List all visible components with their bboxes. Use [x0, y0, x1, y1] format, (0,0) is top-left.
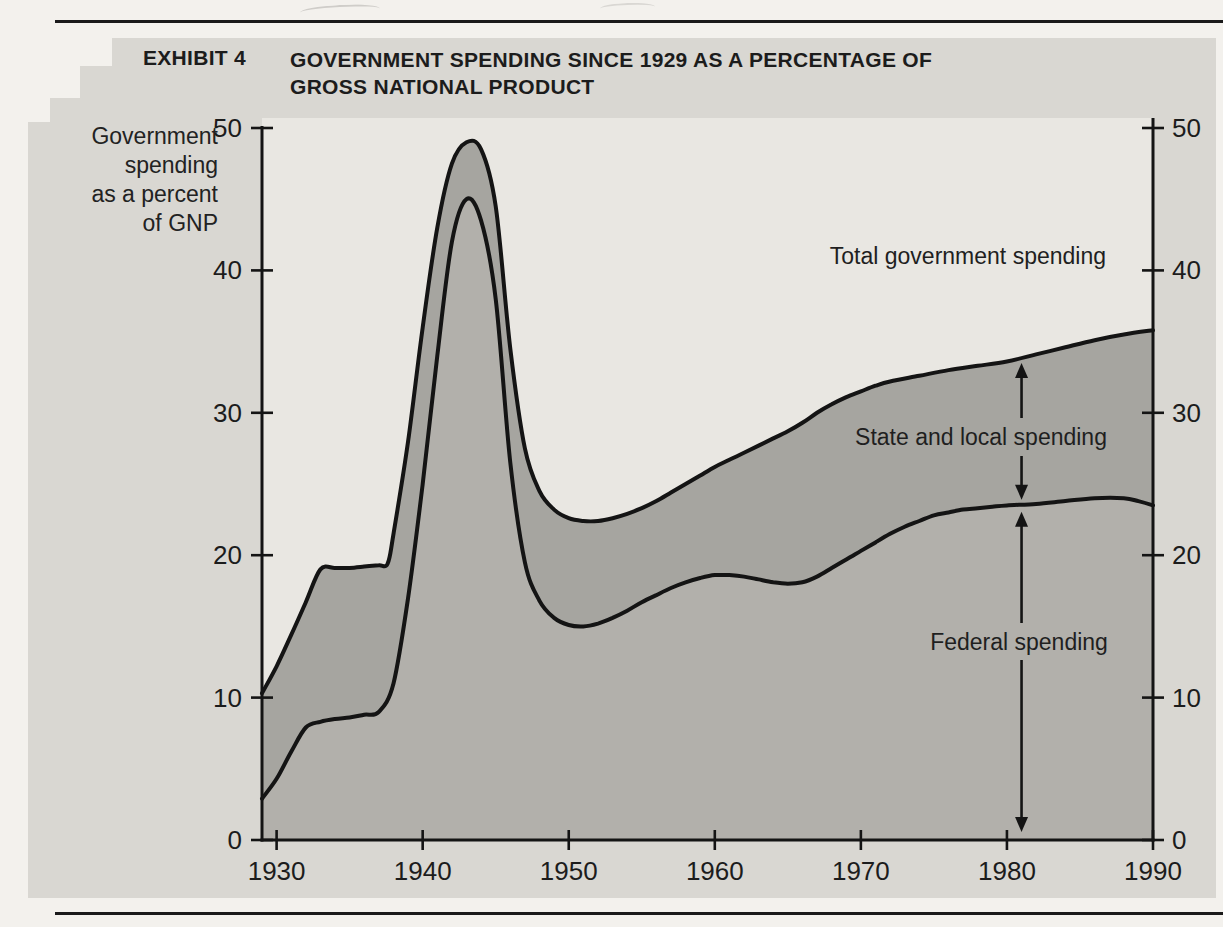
- right-y-tick-label: 10: [1172, 683, 1201, 713]
- left-y-tick-label: 20: [213, 540, 242, 570]
- x-tick-label: 1980: [978, 856, 1036, 886]
- annotation-state-and-local-spending: State and local spending: [855, 424, 1107, 451]
- y-axis-title-line: spending: [0, 151, 218, 180]
- right-y-tick-label: 0: [1172, 825, 1186, 855]
- right-y-tick-label: 50: [1172, 113, 1201, 143]
- x-tick-label: 1930: [248, 856, 306, 886]
- annotation-federal-spending: Federal spending: [930, 629, 1108, 656]
- x-tick-label: 1940: [394, 856, 452, 886]
- left-y-tick-label: 40: [213, 255, 242, 285]
- x-tick-label: 1960: [686, 856, 744, 886]
- annotation-total-government-spending: Total government spending: [830, 243, 1106, 270]
- right-y-tick-label: 30: [1172, 398, 1201, 428]
- y-axis-title-line: as a percent: [0, 180, 218, 209]
- page-bottom-rule: [55, 912, 1223, 915]
- y-axis-title-line: of GNP: [0, 209, 218, 238]
- exhibit-title: GOVERNMENT SPENDING SINCE 1929 AS A PERC…: [290, 46, 1010, 100]
- textbook-page: 0010102020303040405050193019401950196019…: [0, 0, 1223, 927]
- x-tick-label: 1970: [832, 856, 890, 886]
- right-y-tick-label: 40: [1172, 255, 1201, 285]
- x-tick-label: 1950: [540, 856, 598, 886]
- exhibit-title-line1: GOVERNMENT SPENDING SINCE 1929 AS A PERC…: [290, 46, 1010, 73]
- right-y-tick-label: 20: [1172, 540, 1201, 570]
- left-y-tick-label: 10: [213, 683, 242, 713]
- left-y-tick-label: 30: [213, 398, 242, 428]
- y-axis-title-line: Government: [0, 122, 218, 151]
- y-axis-title: Government spending as a percent of GNP: [0, 122, 218, 238]
- exhibit-title-line2: GROSS NATIONAL PRODUCT: [290, 73, 1010, 100]
- x-tick-label: 1990: [1124, 856, 1182, 886]
- left-y-tick-label: 0: [228, 825, 242, 855]
- exhibit-number: EXHIBIT 4: [143, 46, 246, 70]
